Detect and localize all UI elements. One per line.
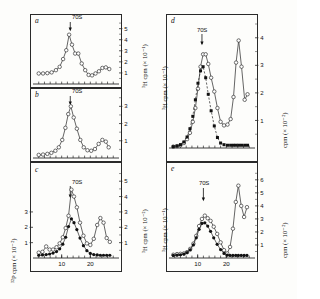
data-point-filled [41, 253, 44, 256]
data-point-filled-square [235, 144, 238, 147]
data-point-open [83, 68, 87, 72]
data-point-open [67, 214, 71, 218]
data-point-open [41, 250, 45, 254]
data-point-open [46, 71, 50, 75]
70s-arrow-head [69, 27, 72, 31]
y-tick-right-label: 2 [124, 121, 128, 127]
data-point-open [226, 123, 230, 127]
data-point-filled [209, 230, 212, 233]
data-point-open [237, 184, 241, 188]
data-point-filled [175, 254, 178, 257]
data-point-open [108, 67, 112, 71]
y-tick-right-label: 5 [124, 178, 128, 184]
data-point-filled [64, 236, 67, 239]
data-point-open [107, 146, 111, 150]
panel-b-label: b [35, 90, 39, 99]
panel-e: 1020123456 e 70S [166, 162, 258, 272]
panel-b: 123 b 70S [30, 88, 122, 162]
data-point-open [209, 76, 213, 80]
data-point-filled [99, 254, 102, 257]
data-point-filled [192, 243, 195, 246]
data-point-open [82, 146, 86, 150]
data-point-open [41, 153, 45, 157]
axis-title-right-c: ³H cpm (× 10⁻²) [141, 209, 149, 253]
y-tick-right-label: 1 [124, 70, 128, 76]
data-point-open [104, 66, 108, 70]
data-point-filled [226, 254, 229, 257]
series-line-P [173, 223, 247, 256]
data-point-open [234, 200, 238, 204]
data-point-open [90, 74, 94, 78]
data-point-filled [189, 248, 192, 251]
y-tick-right-label: 2 [260, 229, 264, 235]
data-point-filled [82, 244, 85, 247]
y-tick-right-label: 6 [260, 177, 264, 183]
data-point-open [105, 236, 109, 240]
data-point-filled [102, 254, 105, 257]
data-point-filled-square [219, 142, 222, 145]
data-point-filled [219, 248, 222, 251]
y-tick-right-label: 3 [260, 216, 264, 222]
data-point-open [55, 246, 59, 250]
data-point-filled [200, 222, 203, 225]
data-point-filled-square [186, 135, 189, 138]
data-point-open [222, 124, 226, 128]
data-point-open [104, 140, 108, 144]
data-point-filled-square [191, 115, 194, 118]
panel-a: 12345 a 70S [30, 14, 122, 88]
data-point-open [67, 112, 71, 116]
data-point-filled [45, 253, 48, 256]
y-tick-right-label: 3 [124, 209, 128, 215]
series-line-H [39, 106, 109, 155]
data-point-open [87, 73, 91, 77]
data-point-filled [67, 225, 70, 228]
data-point-open [58, 242, 62, 246]
data-point-open [57, 146, 61, 150]
data-point-open [61, 236, 65, 240]
y-tick-right-label: 5 [260, 190, 264, 196]
data-point-open [48, 248, 52, 252]
data-point-open [204, 53, 208, 57]
y-tick-right-label: 4 [124, 194, 128, 200]
data-point-open [64, 126, 68, 130]
chart-d: 1234 [166, 14, 258, 162]
data-point-open [219, 120, 223, 124]
x-tick-label: 10 [58, 260, 65, 267]
data-point-open [234, 61, 238, 64]
data-point-open [60, 138, 64, 142]
axis-title-right-d: cpm (× 10⁻²) [281, 113, 289, 148]
data-point-open [99, 216, 103, 220]
data-point-open [50, 151, 54, 155]
data-point-open [46, 152, 50, 156]
data-point-open [245, 205, 249, 209]
data-point-open [75, 127, 79, 131]
panel-d-70s-marker-label: 70S [197, 27, 207, 33]
data-point-open [95, 223, 99, 227]
data-point-filled [231, 254, 234, 257]
y-tick-right-label: 1 [260, 242, 264, 248]
data-point-filled [78, 236, 81, 239]
data-point-open [80, 62, 84, 65]
data-point-filled [195, 236, 198, 239]
data-point-open [89, 149, 93, 153]
data-point-filled-square [216, 136, 219, 139]
axis-title-right-e: cpm (× 10⁻²) [281, 223, 289, 258]
data-point-open [102, 221, 106, 225]
y-tick-right-label: 3 [260, 62, 264, 68]
data-point-open [232, 95, 236, 99]
data-point-open [37, 72, 41, 76]
axis-title-left-d: ³H cpm (× 10⁻¹) [161, 66, 169, 110]
panel-d: 1234 d 70S [166, 14, 258, 162]
data-point-filled [222, 252, 225, 255]
data-point-open [54, 68, 58, 72]
data-point-filled-square [182, 140, 185, 143]
y-tick-right-label: 2 [124, 224, 128, 230]
data-point-filled [245, 254, 248, 257]
data-point-filled-square [237, 144, 240, 147]
data-point-open [44, 245, 48, 249]
data-point-open [82, 234, 86, 238]
y-tick-right-label: 3 [124, 103, 128, 109]
data-point-filled-square [243, 144, 246, 147]
data-point-filled [228, 254, 231, 257]
data-point-open [94, 72, 98, 76]
